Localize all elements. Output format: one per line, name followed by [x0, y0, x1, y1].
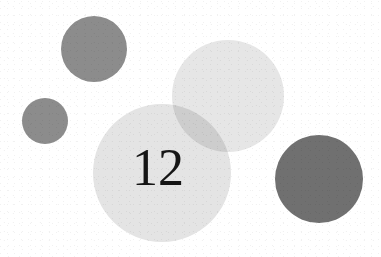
numeral-12-label: 12	[132, 142, 184, 194]
circle-dark-bottom-right	[275, 135, 363, 223]
circle-dark-top-left	[61, 16, 127, 82]
figure-canvas: 12	[0, 0, 381, 257]
circle-dark-small-left	[22, 98, 68, 144]
circles-diagram	[0, 0, 381, 257]
